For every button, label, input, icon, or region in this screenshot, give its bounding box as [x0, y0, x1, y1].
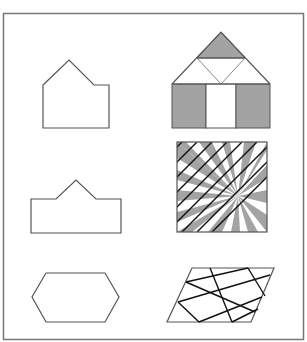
body-middle-white-panel — [206, 84, 236, 128]
body-left-gray-panel — [172, 84, 206, 128]
figure-canvas — [0, 0, 307, 342]
body-right-gray-panel — [236, 84, 270, 128]
